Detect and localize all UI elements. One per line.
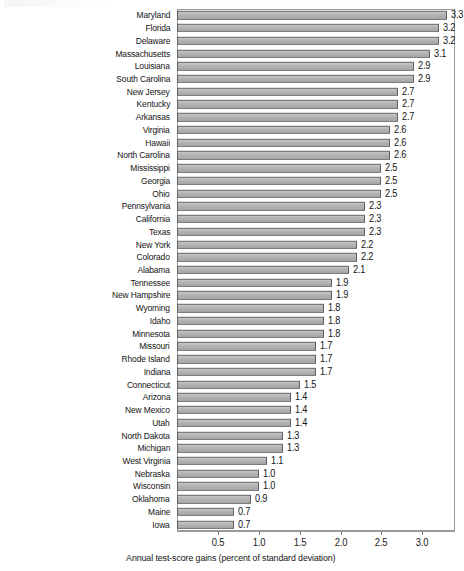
bar-row: Colorado2.2 (0, 251, 461, 264)
bar-value-label-text: 1.7 (320, 341, 332, 351)
bar-row: Hawaii2.6 (0, 136, 461, 149)
bar (177, 228, 365, 236)
bar-category-label-text: Virginia (143, 125, 170, 135)
bar-category-label: Massachusetts (108, 49, 170, 59)
bar-value-label-text: 2.3 (369, 201, 381, 211)
bar (177, 164, 381, 172)
bar-value-label: 1.9 (336, 290, 350, 300)
bar-value-label-text: 3.3 (451, 10, 463, 20)
bar-category-label: New Hampshire (104, 290, 170, 300)
bar-value-label-text: 2.6 (394, 138, 406, 148)
bar-category-label-text: Massachusetts (115, 49, 170, 59)
bar-category-label-text: Texas (149, 227, 170, 237)
bar-category-label-text: New Jersey (127, 87, 170, 97)
bar-row: Mississippi2.5 (0, 162, 461, 175)
bar-row: Connecticut1.5 (0, 378, 461, 391)
bar-category-label: South Carolina (109, 74, 170, 84)
bar-row: Iowa0.7 (0, 518, 461, 531)
bar-category-label: North Dakota (115, 431, 170, 441)
bar-value-label-text: 2.5 (385, 189, 397, 199)
x-axis-tick-label: 2.0 (334, 536, 348, 548)
bar (177, 508, 234, 516)
bar-row: New York2.2 (0, 238, 461, 251)
bar-value-label: 2.7 (402, 112, 416, 122)
bar (177, 202, 365, 210)
bar-category-label-text: North Dakota (122, 431, 170, 441)
bar-value-label-text: 2.6 (394, 150, 406, 160)
bar (177, 189, 381, 197)
bar-category-label-text: Minnesota (132, 329, 170, 339)
bar-category-label: Delaware (131, 36, 170, 46)
bar-category-label-text: North Carolina (117, 150, 170, 160)
bar-category-label: New Mexico (119, 405, 170, 415)
bar (177, 329, 324, 337)
bar (177, 444, 283, 452)
bar (177, 469, 259, 477)
bar-value-label-text: 2.2 (361, 240, 373, 250)
bar-category-label-text: Idaho (150, 316, 170, 326)
bar-category-label: Texas (146, 227, 170, 237)
bar-row: Idaho1.8 (0, 315, 461, 328)
bar-row: Wisconsin1.0 (0, 480, 461, 493)
bar-value-label: 1.0 (263, 469, 277, 479)
bar-category-label: Wyoming (131, 303, 170, 313)
x-axis-tick-label: 2.5 (374, 536, 388, 548)
bar-category-label: Utah (150, 418, 170, 428)
bar-row: Oklahoma0.9 (0, 493, 461, 506)
bar (177, 342, 316, 350)
bar-value-label: 1.3 (287, 431, 301, 441)
bar (177, 240, 357, 248)
x-axis-tick-label: 3.0 (415, 536, 429, 548)
bar (177, 126, 390, 134)
bar-value-label-text: 2.5 (385, 163, 397, 173)
bar-category-label: Maryland (132, 10, 170, 20)
bar-value-label: 1.4 (295, 392, 309, 402)
bar-value-label-text: 1.8 (328, 329, 340, 339)
bar (177, 113, 398, 121)
bar (177, 151, 390, 159)
bar-value-label: 2.9 (418, 61, 432, 71)
bar-category-label: Arizona (139, 392, 170, 402)
bar (177, 520, 234, 528)
bar-value-label: 1.7 (320, 354, 334, 364)
bar (177, 62, 414, 70)
bar-category-label-text: New York (135, 240, 170, 250)
bar-value-label-text: 1.9 (336, 278, 348, 288)
x-axis-tick (300, 531, 301, 535)
bar-value-label: 3.3 (451, 10, 464, 20)
bar-value-label-text: 2.2 (361, 252, 373, 262)
bar-category-label-text: Arkansas (136, 112, 170, 122)
bar (177, 49, 430, 57)
bar-category-label-text: South Carolina (116, 74, 170, 84)
bar-row: California2.3 (0, 213, 461, 226)
bar-row: North Carolina2.6 (0, 149, 461, 162)
bar-row: Massachusetts3.1 (0, 47, 461, 60)
bar-row: Alabama2.1 (0, 264, 461, 277)
bar-category-label-text: Utah (153, 418, 170, 428)
bar-category-label: Arkansas (131, 112, 170, 122)
bar (177, 419, 291, 427)
bar-value-label-text: 1.4 (295, 405, 307, 415)
bar-row: Kentucky2.7 (0, 98, 461, 111)
bar-category-label: Pennsylvania (115, 201, 170, 211)
bar (177, 266, 349, 274)
bar (177, 37, 439, 45)
bar-value-label-text: 1.5 (304, 380, 316, 390)
bar-value-label-text: 2.1 (353, 265, 365, 275)
bar-value-label: 1.4 (295, 405, 309, 415)
bar-value-label: 2.1 (353, 265, 367, 275)
bar-value-label: 2.6 (394, 125, 408, 135)
bar-row: Maryland3.3 (0, 9, 461, 22)
bar-value-label-text: 2.9 (418, 74, 430, 84)
bar-row: Utah1.4 (0, 416, 461, 429)
bar (177, 482, 259, 490)
scan-artifact (4, 0, 184, 7)
x-axis-tick (218, 531, 219, 535)
bar-value-label-text: 1.0 (263, 481, 275, 491)
bar-row: Pennsylvania2.3 (0, 200, 461, 213)
bar-value-label: 2.3 (369, 214, 383, 224)
bar-value-label: 1.9 (336, 278, 350, 288)
bar-category-label-text: Arizona (142, 392, 170, 402)
bar-category-label-text: Maine (148, 507, 170, 517)
bar-category-label: Iowa (150, 520, 170, 530)
